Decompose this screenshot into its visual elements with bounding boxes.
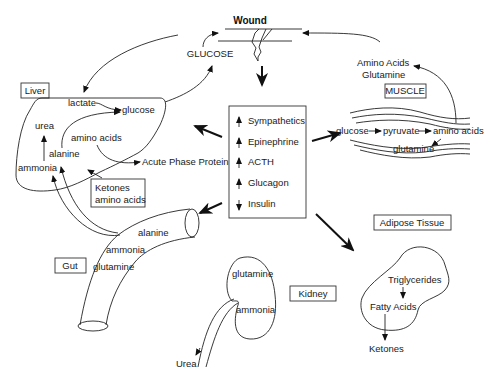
liver-label: Liver	[25, 85, 46, 96]
svg-text:Ketones: Ketones	[95, 182, 130, 193]
wound-metabolism-diagram: Wound GLUCOSE Sympathetics Epinephrine A…	[0, 0, 492, 375]
svg-text:ammonia: ammonia	[236, 304, 276, 315]
svg-text:Triglycerides: Triglycerides	[388, 274, 442, 285]
svg-text:lactate: lactate	[68, 97, 96, 108]
svg-text:glucose: glucose	[336, 125, 369, 136]
svg-text:Epinephrine: Epinephrine	[248, 136, 299, 147]
svg-text:Glucagon: Glucagon	[248, 177, 289, 188]
svg-text:alanine: alanine	[138, 227, 169, 238]
svg-text:Amino Acids: Amino Acids	[357, 57, 410, 68]
adipose-label: Adipose Tissue	[380, 217, 444, 228]
svg-text:pyruvate: pyruvate	[383, 125, 419, 136]
svg-text:glutamine: glutamine	[232, 268, 273, 279]
svg-text:glutamine: glutamine	[93, 261, 134, 272]
svg-text:alanine: alanine	[49, 148, 80, 159]
svg-text:amino acids: amino acids	[95, 194, 146, 205]
urea-output-label: Urea	[176, 358, 197, 369]
hormone-box: Sympathetics Epinephrine ACTH Glucagon I…	[229, 106, 306, 218]
gut: alanine ammonia glutamine Gut	[55, 209, 199, 331]
svg-text:urea: urea	[35, 120, 55, 131]
kidney-label: Kidney	[298, 288, 327, 299]
ketones-output-label: Ketones	[369, 343, 404, 354]
kidney: glutamine ammonia Urea Kidney	[176, 257, 336, 369]
svg-text:ACTH: ACTH	[248, 156, 274, 167]
svg-text:ammonia: ammonia	[106, 244, 146, 255]
wound-gash-icon	[252, 29, 266, 61]
svg-text:Glutamine: Glutamine	[362, 69, 405, 80]
gut-label: Gut	[62, 260, 78, 271]
hormone-item: Epinephrine	[239, 136, 299, 148]
muscle-label: MUSCLE	[385, 85, 425, 96]
adipose-outline	[361, 247, 449, 330]
svg-text:Fatty Acids: Fatty Acids	[370, 301, 417, 312]
svg-text:ammonia: ammonia	[18, 162, 58, 173]
hormone-item: Sympathetics	[239, 115, 305, 127]
adipose-tissue: Adipose Tissue Triglycerides Fatty Acids…	[361, 215, 451, 354]
svg-text:amino acids: amino acids	[433, 125, 484, 136]
acute-phase-protein-label: Acute Phase Protein	[142, 156, 229, 167]
svg-text:glucose: glucose	[122, 104, 155, 115]
wound-title: Wound	[233, 15, 267, 26]
svg-text:Insulin: Insulin	[248, 198, 275, 209]
svg-text:glutamine: glutamine	[393, 143, 434, 154]
svg-text:amino acids: amino acids	[71, 132, 122, 143]
glucose-label: GLUCOSE	[187, 48, 233, 59]
liver: Liver lactate glucose urea amino acids a…	[16, 83, 229, 207]
svg-text:Sympathetics: Sympathetics	[248, 115, 305, 126]
muscle: Amino Acids Glutamine MUSCLE glucose pyr…	[336, 57, 484, 158]
